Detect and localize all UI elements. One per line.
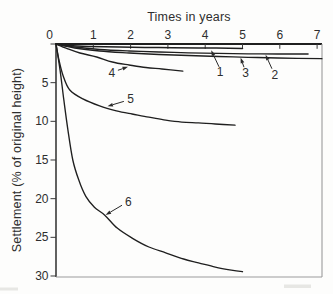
- curve-6: [56, 44, 243, 272]
- x-tick-label-0: 0: [46, 28, 53, 42]
- y-tick-label-30: 30: [35, 269, 49, 283]
- settlement-time-figure: Times in years Settlement (% of original…: [0, 0, 333, 294]
- curve-label-arrowhead-4: [122, 67, 128, 71]
- curve-label-arrow-4: [118, 69, 123, 71]
- y-tick-label-5: 5: [42, 76, 49, 90]
- curve-label-arrowhead-6: [106, 211, 112, 215]
- curve-label-2: 2: [272, 68, 279, 82]
- scan-artifact: [284, 285, 311, 289]
- x-tick-label-3: 3: [165, 28, 172, 42]
- curve-label-4: 4: [109, 66, 116, 80]
- curve-label-3: 3: [242, 66, 249, 80]
- x-tick-label-7: 7: [314, 28, 321, 42]
- y-tick-label-25: 25: [35, 230, 49, 244]
- y-tick-label-10: 10: [35, 114, 49, 128]
- curve-label-arrow-6: [110, 205, 122, 212]
- curve-label-1: 1: [217, 65, 224, 79]
- scan-artifact: [0, 288, 18, 291]
- curve-label-6: 6: [125, 195, 132, 209]
- curve-label-arrow-5: [113, 101, 124, 104]
- y-tick-label-20: 20: [35, 192, 49, 206]
- curve-3: [56, 44, 308, 54]
- curve-label-5: 5: [127, 92, 134, 106]
- x-tick-label-4: 4: [202, 28, 209, 42]
- curve-label-arrowhead-3: [241, 58, 245, 64]
- x-tick-label-2: 2: [127, 28, 134, 42]
- x-tick-label-5: 5: [239, 28, 246, 42]
- curve-label-arrowhead-5: [108, 103, 114, 107]
- x-tick-label-1: 1: [90, 28, 97, 42]
- y-tick-label-15: 15: [35, 153, 49, 167]
- settlement-chart-plot: 0123456751015202530123456: [0, 0, 333, 294]
- x-tick-label-6: 6: [276, 28, 283, 42]
